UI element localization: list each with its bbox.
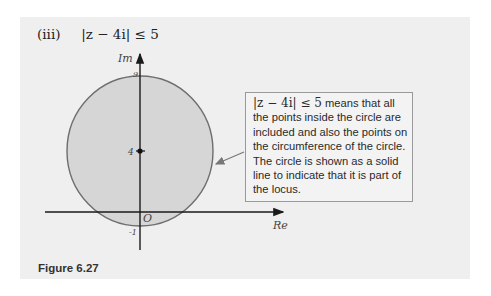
- figure-caption: Figure 6.27: [38, 262, 99, 274]
- re-axis-label: Re: [272, 219, 288, 232]
- im-axis-label: Im: [117, 52, 133, 65]
- bottom-tick-label: -1: [129, 228, 137, 237]
- center-tick-label: 4: [127, 147, 134, 157]
- callout-pointer-arrow: [216, 152, 244, 164]
- callout-box: |z − 4i| ≤ 5 means that all the points i…: [245, 92, 413, 202]
- origin-label: O: [143, 212, 152, 225]
- top-tick-label: 9: [133, 70, 138, 79]
- callout-math: |z − 4i| ≤ 5: [253, 96, 322, 110]
- callout-text: means that all the points inside the cir…: [253, 97, 407, 195]
